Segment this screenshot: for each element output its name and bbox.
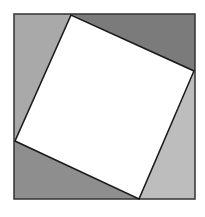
pythagoras-diagram bbox=[0, 0, 205, 217]
